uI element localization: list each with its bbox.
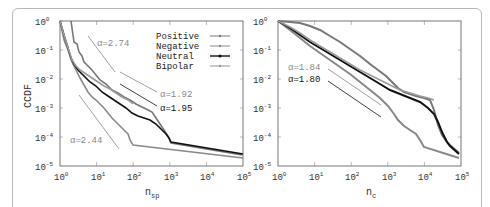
annotation-alpha-2-44: α=2.44 (70, 136, 102, 146)
svg-text:10-1: 10-1 (253, 45, 271, 57)
svg-text:10-5: 10-5 (253, 161, 271, 173)
svg-text:10-2: 10-2 (35, 74, 53, 86)
legend-label-negative: Negative (156, 42, 199, 52)
svg-text:10-4: 10-4 (253, 132, 271, 144)
svg-text:100: 100 (272, 171, 287, 183)
svg-text:100: 100 (54, 171, 69, 183)
svg-text:105: 105 (237, 171, 252, 183)
left-series-bipolar (60, 21, 133, 104)
left-series-neutral (60, 21, 243, 154)
left-x-axis-label: nsp (145, 187, 159, 200)
right-x-tick-labels: 100 101 102 103 104 105 (272, 171, 470, 183)
legend: Positive Negative Neutral Bipolar (156, 32, 230, 72)
svg-text:100: 100 (35, 16, 50, 28)
annotation-alpha-1-95: α=1.95 (160, 104, 192, 114)
svg-text:10-5: 10-5 (35, 161, 53, 173)
legend-label-positive: Positive (156, 32, 199, 42)
svg-text:10-2: 10-2 (253, 74, 271, 86)
slope-line-1-92 (120, 72, 157, 92)
svg-text:105: 105 (455, 171, 470, 183)
svg-text:101: 101 (91, 171, 106, 183)
slope-line-1-80 (328, 81, 381, 117)
svg-text:104: 104 (418, 171, 433, 183)
left-y-tick-labels: 100 10-1 10-2 10-3 10-4 10-5 (35, 16, 53, 173)
slope-line-1-95 (120, 84, 157, 106)
legend-label-neutral: Neutral (156, 52, 194, 62)
annotation-alpha-2-74: α=2.74 (97, 39, 129, 49)
right-y-tick-labels: 100 10-1 10-2 10-3 10-4 10-5 (253, 16, 271, 173)
left-panel: 100 10-1 10-2 10-3 10-4 10-5 100 101 102… (23, 16, 252, 200)
svg-text:101: 101 (309, 171, 324, 183)
svg-text:10-3: 10-3 (253, 103, 271, 115)
right-panel: 100 10-1 10-2 10-3 10-4 10-5 100 101 102… (253, 16, 470, 200)
annotation-alpha-1-80: α=1.80 (288, 75, 320, 85)
svg-text:10-4: 10-4 (35, 132, 53, 144)
svg-text:10-1: 10-1 (35, 45, 53, 57)
svg-text:104: 104 (200, 171, 215, 183)
right-series-negative (278, 21, 459, 158)
figure-svg: 100 10-1 10-2 10-3 10-4 10-5 100 101 102… (0, 0, 490, 207)
legend-label-bipolar: Bipolar (156, 62, 194, 72)
slope-line-1-84 (328, 69, 381, 105)
annotation-alpha-1-84: α=1.84 (288, 63, 320, 73)
left-x-tick-labels: 100 101 102 103 104 105 (54, 171, 252, 183)
svg-text:100: 100 (253, 16, 268, 28)
svg-text:102: 102 (345, 171, 360, 183)
right-series-positive (278, 21, 459, 153)
svg-text:10-3: 10-3 (35, 103, 53, 115)
svg-text:102: 102 (127, 171, 142, 183)
svg-text:103: 103 (164, 171, 179, 183)
right-x-axis-label: nc (366, 187, 376, 200)
left-y-axis-label: CCDF (23, 84, 34, 108)
svg-text:103: 103 (382, 171, 397, 183)
annotation-alpha-1-92: α=1.92 (160, 90, 192, 100)
